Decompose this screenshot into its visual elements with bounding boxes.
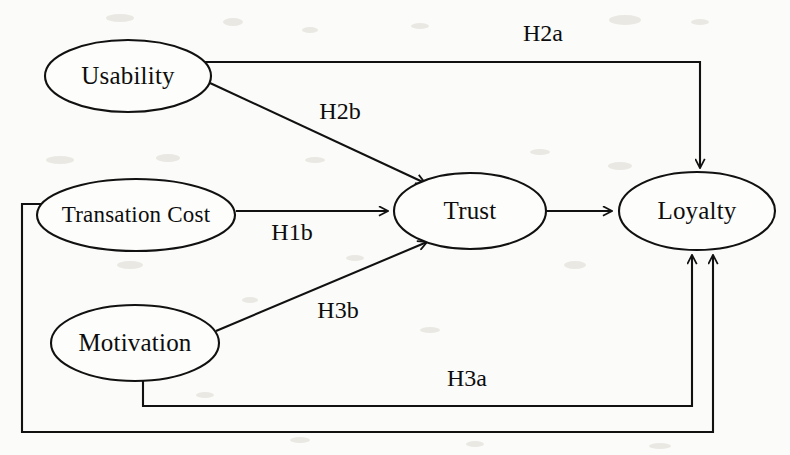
edge-label-h1b: H1b: [271, 219, 312, 245]
loyalty-label: Loyalty: [657, 197, 736, 224]
edge-h3a: [143, 255, 692, 406]
edge-label-h3a: H3a: [447, 365, 487, 391]
transaction-cost-label: Transation Cost: [62, 202, 211, 227]
node-motivation[interactable]: Motivation: [51, 305, 219, 381]
edge-label-h3b: H3b: [317, 297, 358, 323]
edge-h2b-line: [210, 83, 425, 183]
node-trust[interactable]: Trust: [394, 173, 546, 249]
edge-h3a-line: [143, 255, 692, 406]
edge-h2b: [210, 83, 425, 183]
node-loyalty[interactable]: Loyalty: [619, 172, 775, 250]
node-transaction-cost[interactable]: Transation Cost: [37, 179, 235, 251]
trust-label: Trust: [444, 197, 497, 224]
node-usability[interactable]: Usability: [45, 40, 211, 112]
motivation-label: Motivation: [78, 329, 191, 356]
research-model-diagram: Usability Transation Cost Motivation Tru…: [0, 0, 790, 455]
edge-label-h2b: H2b: [319, 98, 360, 124]
usability-label: Usability: [81, 62, 175, 89]
edge-label-h2a: H2a: [523, 20, 563, 46]
diagram-canvas: Usability Transation Cost Motivation Tru…: [0, 0, 790, 455]
